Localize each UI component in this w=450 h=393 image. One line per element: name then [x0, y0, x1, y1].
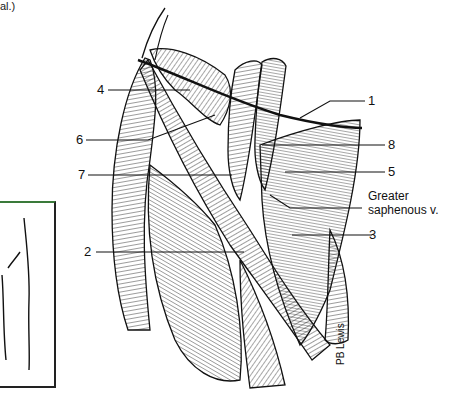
- label-1: 1: [368, 94, 375, 108]
- label-7: 7: [78, 168, 85, 182]
- label-6: 6: [76, 133, 83, 147]
- inset-leg-sketch: [2, 218, 29, 370]
- label-greater-saphenous-line1: Greater: [368, 190, 409, 203]
- label-4: 4: [97, 83, 104, 97]
- label-2: 2: [84, 245, 91, 259]
- label-3: 3: [369, 228, 376, 242]
- label-greater-saphenous-line2: saphenous v.: [368, 204, 439, 217]
- label-8: 8: [388, 138, 395, 152]
- label-5: 5: [388, 165, 395, 179]
- artist-signature: PB Lewis: [335, 323, 346, 365]
